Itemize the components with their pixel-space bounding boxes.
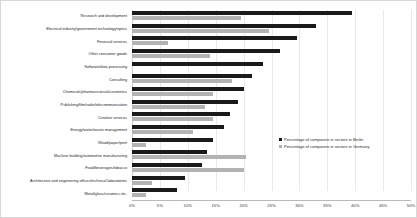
bar-row	[132, 86, 411, 99]
x-tick-label: 5%	[157, 203, 163, 208]
bar-germany	[132, 117, 213, 121]
category-label: Architecture and engineering offices/tec…	[30, 179, 127, 183]
legend-item: Percentage of companies in sectors in Ge…	[279, 143, 369, 150]
bar-row	[132, 124, 411, 137]
legend-swatch-berlin	[279, 138, 282, 141]
bar-row	[132, 99, 411, 112]
x-tick-label: 25%	[267, 203, 275, 208]
bar-germany	[132, 143, 146, 147]
bar-row	[132, 10, 411, 23]
x-tick-label: 20%	[239, 203, 247, 208]
x-tick-label: 35%	[323, 203, 331, 208]
plot-area	[132, 10, 411, 200]
x-tick-label: 45%	[379, 203, 387, 208]
x-tick-label: 10%	[184, 203, 192, 208]
category-label: Metal/glass/ceramics etc.	[85, 192, 127, 196]
gridline-50	[411, 10, 412, 191]
bar-germany	[132, 105, 205, 109]
bar-germany	[132, 29, 269, 33]
bar-germany	[132, 168, 244, 172]
category-label: Machine building/automotive manufacturin…	[54, 154, 127, 158]
bar-row	[132, 61, 411, 74]
category-label: Other consumer goods	[88, 52, 127, 56]
bar-berlin	[132, 188, 177, 192]
bar-row	[132, 162, 411, 175]
bar-germany	[132, 92, 213, 96]
bar-berlin	[132, 74, 252, 78]
bar-germany	[132, 130, 193, 134]
bar-berlin	[132, 100, 238, 104]
chart-legend: Percentage of companies in sectors in Be…	[279, 136, 369, 150]
bar-berlin	[132, 138, 213, 142]
category-label: Publishing/film/radio/telecommunication	[61, 103, 127, 107]
bar-row	[132, 149, 411, 162]
category-label: Consulting	[109, 78, 127, 82]
bar-row	[132, 35, 411, 48]
bar-germany	[132, 41, 168, 45]
bar-berlin	[132, 87, 244, 91]
legend-label: Percentage of companies in sectors in Ge…	[284, 143, 369, 150]
legend-swatch-germany	[279, 145, 282, 148]
bar-berlin	[132, 176, 185, 180]
bar-germany	[132, 155, 246, 159]
x-tick-label: 15%	[211, 203, 219, 208]
bar-row	[132, 187, 411, 200]
bar-berlin	[132, 125, 224, 129]
bar-germany	[132, 181, 152, 185]
bar-berlin	[132, 62, 263, 66]
category-label: Research and development	[81, 14, 127, 18]
bar-berlin	[132, 49, 280, 53]
bar-berlin	[132, 24, 316, 28]
bar-row	[132, 175, 411, 188]
bar-germany	[132, 79, 232, 83]
bar-berlin	[132, 163, 202, 167]
category-label: Food/beverages/tobacco	[85, 166, 127, 170]
category-label: Chemicals/pharmaceuticals/cosmetics	[63, 90, 127, 94]
x-tick-label: 50%	[407, 203, 415, 208]
bar-row	[132, 48, 411, 61]
bar-germany	[132, 193, 146, 197]
legend-item: Percentage of companies in sectors in Be…	[279, 136, 369, 143]
category-label: Wood/paper/print	[98, 141, 127, 145]
bar-berlin	[132, 11, 352, 15]
bar-row	[132, 23, 411, 36]
chart-container: Percentage of companies in sectors in Be…	[0, 0, 417, 218]
bar-row	[132, 73, 411, 86]
x-tick-label: 30%	[295, 203, 303, 208]
bar-row	[132, 111, 411, 124]
category-label: Electrical industry/government technolog…	[46, 27, 127, 31]
bar-berlin	[132, 150, 207, 154]
x-tick-label: 40%	[351, 203, 359, 208]
category-label: Financial services	[97, 40, 127, 44]
bar-germany	[132, 54, 210, 58]
x-tick-label: 0%	[129, 203, 135, 208]
category-label: Software/data processing	[84, 65, 127, 69]
category-label: Energy/water/waste management	[70, 128, 127, 132]
bar-berlin	[132, 112, 230, 116]
legend-label: Percentage of companies in sectors in Be…	[284, 136, 363, 143]
bar-germany	[132, 16, 241, 20]
category-label: Creative services	[98, 116, 127, 120]
x-axis-line	[132, 200, 411, 201]
bar-berlin	[132, 36, 297, 40]
